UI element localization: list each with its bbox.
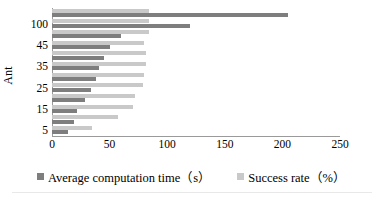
- bar-success-rate: [52, 9, 149, 13]
- bar-success-rate: [52, 51, 146, 55]
- plot-area: [52, 8, 340, 136]
- x-axis-line: [52, 136, 340, 137]
- bar-computation-time: [52, 34, 121, 38]
- bar-group: [52, 51, 340, 62]
- bar-success-rate: [52, 30, 149, 34]
- x-tick-label: 200: [274, 138, 291, 150]
- x-axis-tick-labels: 050100150200250: [52, 138, 340, 154]
- bar-computation-time: [52, 56, 104, 60]
- bar-group: [52, 40, 340, 51]
- legend-label: Success rate（%）: [248, 167, 346, 186]
- bar-group: [52, 19, 340, 30]
- bar-computation-time: [52, 120, 74, 124]
- bar-success-rate: [52, 126, 92, 130]
- bar-computation-time: [52, 24, 190, 28]
- bar-computation-time: [52, 98, 85, 102]
- bar-computation-time: [52, 13, 288, 17]
- bar-chart: Ant 100453525155 050100150200250 Average…: [0, 0, 383, 203]
- bar-success-rate: [52, 73, 144, 77]
- bar-success-rate: [52, 115, 118, 119]
- x-tick-label: 50: [104, 138, 116, 150]
- bar-group: [52, 125, 340, 136]
- bar-success-rate: [52, 83, 143, 87]
- x-tick-label: 100: [159, 138, 176, 150]
- bar-success-rate: [52, 105, 133, 109]
- bar-computation-time: [52, 77, 96, 81]
- bar-group: [52, 8, 340, 19]
- bar-success-rate: [52, 41, 144, 45]
- bar-group: [52, 83, 340, 94]
- bar-computation-time: [52, 130, 68, 134]
- legend-swatch-icon: [237, 173, 244, 180]
- bar-group: [52, 61, 340, 72]
- y-tick-label: 100: [31, 19, 48, 30]
- y-tick-label: 5: [42, 125, 48, 136]
- legend-label: Average computation time（s）: [48, 167, 211, 186]
- x-tick-label: 250: [331, 138, 348, 150]
- bar-group: [52, 93, 340, 104]
- chart-legend: Average computation time（s）Success rate（…: [0, 165, 383, 187]
- legend-swatch-icon: [37, 173, 44, 180]
- y-axis-tick-labels: 100453525155: [14, 8, 48, 136]
- y-tick-label: 25: [37, 83, 49, 94]
- y-tick-label: 45: [37, 40, 49, 51]
- y-tick-label: 35: [37, 61, 49, 72]
- bar-computation-time: [52, 88, 91, 92]
- bar-computation-time: [52, 45, 110, 49]
- bar-computation-time: [52, 109, 77, 113]
- x-tick-label: 150: [216, 138, 233, 150]
- bar-computation-time: [52, 66, 99, 70]
- bar-group: [52, 72, 340, 83]
- bar-group: [52, 29, 340, 40]
- bar-success-rate: [52, 62, 146, 66]
- bar-success-rate: [52, 94, 135, 98]
- legend-item[interactable]: Success rate（%）: [237, 167, 346, 186]
- x-tick-label: 0: [49, 138, 55, 150]
- bar-success-rate: [52, 19, 149, 23]
- bar-group: [52, 104, 340, 115]
- bar-group: [52, 115, 340, 126]
- legend-item[interactable]: Average computation time（s）: [37, 167, 211, 186]
- y-tick-label: 15: [37, 104, 49, 115]
- legend-divider: [12, 192, 372, 193]
